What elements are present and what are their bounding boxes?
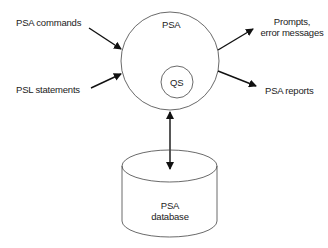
psa-database-label: PSA database <box>140 200 200 222</box>
prompts-error-messages-label: Prompts, error messages <box>259 16 325 38</box>
psa-commands-label: PSA commands <box>16 17 81 28</box>
arrow-psl-statements <box>91 74 121 88</box>
psa-reports-label: PSA reports <box>265 85 314 96</box>
psa-process-label: PSA <box>162 19 180 30</box>
qs-subprocess-label: QS <box>170 77 183 88</box>
psl-statements-label: PSL statements <box>16 84 80 95</box>
prompts-label-line1: Prompts, <box>259 16 325 27</box>
database-label-line1: PSA <box>140 200 200 211</box>
arrow-psa-commands <box>89 28 121 49</box>
arrow-prompts <box>218 29 253 50</box>
prompts-label-line2: error messages <box>259 27 325 38</box>
database-label-line2: database <box>140 211 200 222</box>
arrow-psa-reports <box>218 71 256 86</box>
